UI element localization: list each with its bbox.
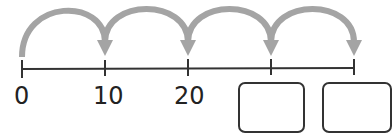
arrowhead-icon	[97, 40, 113, 56]
answer-box-40[interactable]	[322, 82, 392, 133]
axis	[22, 59, 354, 78]
label-20: 20	[174, 84, 205, 108]
arrowhead-icon	[263, 40, 279, 56]
arrowheads	[97, 40, 362, 56]
jump-arc-4	[271, 9, 354, 42]
label-0: 0	[14, 84, 29, 108]
answer-box-30[interactable]	[238, 82, 305, 133]
label-10: 10	[93, 84, 124, 108]
jump-arc-2	[105, 9, 188, 42]
arrowhead-icon	[346, 40, 362, 56]
arrowhead-icon	[180, 40, 196, 56]
jump-arc-1	[22, 11, 105, 57]
jump-arc-3	[188, 9, 271, 42]
